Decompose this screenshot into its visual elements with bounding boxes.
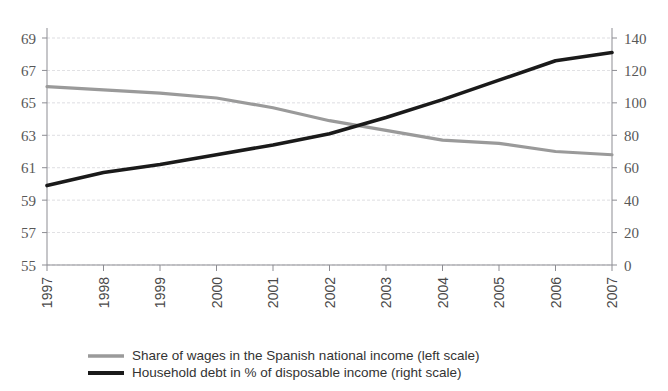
- x-axis-tick-label: 1999: [152, 277, 168, 308]
- left-axis-tick-label: 61: [21, 160, 36, 176]
- x-axis-tick-label: 2003: [378, 277, 394, 308]
- series-line-share-of-wages: [47, 87, 612, 155]
- right-axis-tick-label: 0: [624, 258, 632, 274]
- left-axis: 5557596163656769: [21, 28, 47, 274]
- x-axis-tick-label: 2002: [322, 277, 338, 308]
- right-axis-tick-label: 60: [624, 160, 639, 176]
- left-axis-tick-label: 63: [21, 128, 36, 144]
- right-axis-tick-label: 100: [624, 95, 647, 111]
- left-axis-tick-label: 67: [21, 63, 37, 79]
- right-axis-tick-label: 40: [624, 193, 639, 209]
- x-axis-tick-label: 1998: [96, 277, 112, 308]
- x-axis-tick-label: 2000: [209, 277, 225, 308]
- x-axis-tick-label: 1997: [39, 277, 55, 308]
- x-axis-tick-label: 2006: [548, 277, 564, 308]
- x-axis: 1997199819992000200120022003200420052006…: [39, 265, 620, 308]
- left-axis-tick-label: 57: [21, 225, 37, 241]
- x-axis-tick-label: 2007: [604, 277, 620, 308]
- left-axis-tick-label: 59: [21, 193, 36, 209]
- left-axis-tick-label: 55: [21, 258, 36, 274]
- right-axis: 020406080100120140: [612, 28, 647, 274]
- x-axis-tick-label: 2005: [491, 277, 507, 308]
- right-axis-tick-label: 120: [624, 63, 647, 79]
- line-chart-svg: 5557596163656769 020406080100120140 1997…: [0, 0, 668, 391]
- legend-label-share-of-wages: Share of wages in the Spanish national i…: [132, 348, 479, 363]
- left-axis-tick-label: 69: [21, 31, 36, 47]
- legend-label-household-debt: Household debt in % of disposable income…: [132, 365, 461, 380]
- right-axis-tick-label: 140: [624, 31, 647, 47]
- x-axis-tick-label: 2001: [265, 277, 281, 308]
- right-axis-tick-label: 20: [624, 225, 639, 241]
- x-axis-tick-label: 2004: [435, 277, 451, 308]
- left-axis-tick-label: 65: [21, 95, 36, 111]
- right-axis-tick-label: 80: [624, 128, 639, 144]
- chart-container: 5557596163656769 020406080100120140 1997…: [0, 0, 668, 391]
- series-lines: [47, 53, 612, 186]
- chart-legend: Share of wages in the Spanish national i…: [88, 348, 479, 380]
